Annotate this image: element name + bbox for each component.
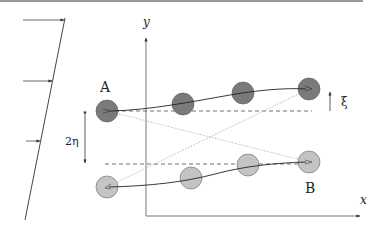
x-axis-label: x [360, 193, 367, 207]
separation-label: 2η [65, 135, 79, 148]
lower-trajectory [109, 162, 306, 187]
dotted-line-lower-to-upper [107, 89, 309, 187]
shear-flow-diagram: y x A B 2η ξ [0, 0, 385, 232]
shear-arrows [23, 20, 64, 141]
point-b-label: B [305, 180, 315, 196]
dotted-line-a-to-b [107, 111, 309, 162]
velocity-profile-line [25, 18, 65, 220]
y-axis-label: y [142, 15, 150, 29]
upper-trajectory [111, 89, 306, 111]
lower-particle-row [96, 151, 320, 198]
displacement-label: ξ [341, 95, 348, 109]
point-a-label: A [99, 79, 111, 95]
lower-particle [237, 154, 259, 176]
